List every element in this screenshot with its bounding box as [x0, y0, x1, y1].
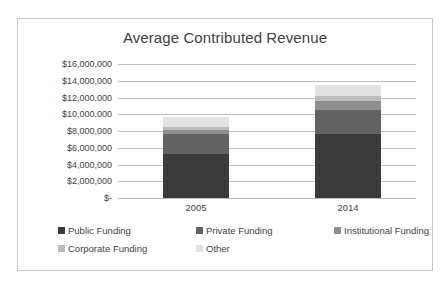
- legend-row: Corporate FundingOther: [58, 242, 398, 255]
- legend-label: Corporate Funding: [68, 244, 147, 254]
- gridline: [118, 198, 416, 199]
- bar-segment[interactable]: [163, 154, 229, 198]
- y-axis-tick-label: $10,000,000: [32, 109, 112, 119]
- plot-area: $-$2,000,000$4,000,000$6,000,000$8,000,0…: [118, 64, 416, 198]
- legend-item[interactable]: Other: [196, 244, 230, 254]
- bar-segment[interactable]: [163, 134, 229, 154]
- chart-legend: Public FundingPrivate FundingInstitution…: [58, 224, 398, 260]
- gridline: [118, 81, 416, 82]
- legend-label: Public Funding: [68, 226, 131, 236]
- stacked-bar[interactable]: [315, 85, 381, 198]
- legend-item[interactable]: Public Funding: [58, 226, 131, 236]
- legend-swatch-icon: [196, 227, 203, 234]
- y-axis-tick-label: $8,000,000: [32, 126, 112, 136]
- legend-item[interactable]: Private Funding: [196, 226, 273, 236]
- legend-label: Other: [206, 244, 230, 254]
- bar-segment[interactable]: [315, 134, 381, 198]
- x-axis-category-label: 2005: [163, 202, 229, 213]
- legend-label: Institutional Funding: [344, 226, 429, 236]
- bar-segment[interactable]: [315, 85, 381, 96]
- gridline: [118, 64, 416, 65]
- chart-title: Average Contributed Revenue: [18, 29, 432, 46]
- chart-container: Average Contributed Revenue $-$2,000,000…: [17, 18, 433, 271]
- legend-swatch-icon: [196, 245, 203, 252]
- y-axis-tick-label: $2,000,000: [32, 176, 112, 186]
- legend-swatch-icon: [334, 227, 341, 234]
- bar-segment[interactable]: [315, 101, 381, 110]
- y-axis-tick-label: $16,000,000: [32, 59, 112, 69]
- legend-item[interactable]: Corporate Funding: [58, 244, 147, 254]
- y-axis-tick-label: $6,000,000: [32, 143, 112, 153]
- legend-swatch-icon: [58, 245, 65, 252]
- x-axis-category-label: 2014: [315, 202, 381, 213]
- y-axis-tick-label: $4,000,000: [32, 160, 112, 170]
- y-axis-tick-label: $-: [32, 193, 112, 203]
- legend-swatch-icon: [58, 227, 65, 234]
- bar-segment[interactable]: [163, 117, 229, 127]
- y-axis-tick-label: $12,000,000: [32, 93, 112, 103]
- stacked-bar[interactable]: [163, 117, 229, 198]
- y-axis-tick-label: $14,000,000: [32, 76, 112, 86]
- legend-label: Private Funding: [206, 226, 273, 236]
- legend-row: Public FundingPrivate FundingInstitution…: [58, 224, 398, 237]
- bar-segment[interactable]: [315, 110, 381, 134]
- legend-item[interactable]: Institutional Funding: [334, 226, 429, 236]
